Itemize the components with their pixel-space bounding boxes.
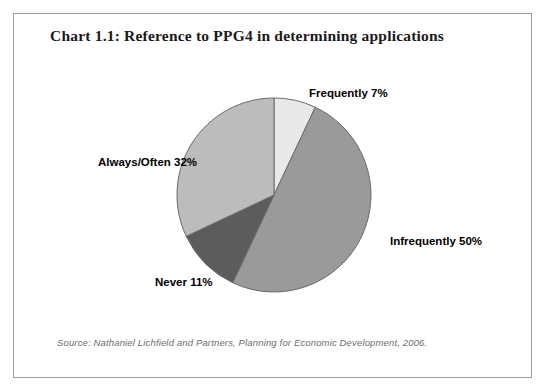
pie-chart-svg bbox=[13, 13, 532, 378]
pie-chart-plot-area: Frequently 7% Infrequently 50% Always/Of… bbox=[13, 13, 532, 378]
pie-label-never: Never 11% bbox=[155, 276, 213, 288]
source-note: Source: Nathaniel Lichfield and Partners… bbox=[57, 337, 427, 348]
pie-label-frequently: Frequently 7% bbox=[309, 87, 388, 99]
pie-label-always-often: Always/Often 32% bbox=[98, 156, 197, 168]
pie-label-infrequently: Infrequently 50% bbox=[390, 235, 482, 247]
chart-page: Chart 1.1: Reference to PPG4 in determin… bbox=[0, 0, 546, 392]
pie-slice-group bbox=[177, 98, 371, 292]
